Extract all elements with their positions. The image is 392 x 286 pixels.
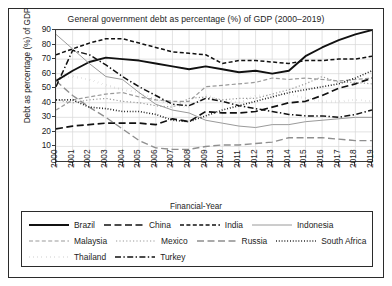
legend-label: Thailand <box>74 252 106 262</box>
y-axis-tick-mark <box>52 87 55 88</box>
legend-item[interactable]: India <box>179 220 243 230</box>
legend-item[interactable]: China <box>103 220 171 230</box>
legend-swatch-china <box>103 220 145 230</box>
legend-item[interactable]: Russia <box>196 236 268 246</box>
legend-label: Indonesia <box>297 220 333 230</box>
x-axis-tick-label: 2014 <box>282 149 292 168</box>
legend-label: India <box>225 220 243 230</box>
x-axis-tick-label: 2000 <box>49 149 59 168</box>
legend-item[interactable]: Brazil <box>28 220 95 230</box>
legend-swatch-india <box>179 220 221 230</box>
y-axis-tick-label: 40 <box>42 97 51 107</box>
legend-item[interactable]: Indonesia <box>251 220 333 230</box>
y-axis-tick-label: 30 <box>42 111 51 121</box>
x-axis-tick-label: 2012 <box>249 149 259 168</box>
y-axis-tick-mark <box>52 131 55 132</box>
series-line <box>56 71 372 122</box>
y-axis-tick-label: 70 <box>42 53 51 63</box>
y-axis-tick-mark <box>52 145 55 146</box>
legend-label: Mexico <box>161 236 188 246</box>
x-axis-tick-label: 2005 <box>132 149 142 168</box>
y-axis-tick-mark <box>52 73 55 74</box>
legend-swatch-mexico <box>115 236 157 246</box>
y-axis-tick-mark <box>52 116 55 117</box>
plot-area <box>55 29 373 162</box>
series-line <box>56 30 372 81</box>
y-axis-tick-label: 90 <box>42 24 51 34</box>
x-axis-tick-label: 2018 <box>348 149 358 168</box>
legend-swatch-brazil <box>28 220 70 230</box>
series-line <box>56 81 372 149</box>
legend-row: BrazilChinaIndiaIndonesia <box>28 217 366 233</box>
y-axis-tick-mark <box>52 102 55 103</box>
x-axis-tick-label: 2003 <box>99 149 109 168</box>
chart-legend: BrazilChinaIndiaIndonesiaMalaysiaMexicoR… <box>21 211 373 267</box>
legend-label: Turkey <box>160 252 185 262</box>
legend-label: Russia <box>242 236 268 246</box>
legend-swatch-indonesia <box>251 220 293 230</box>
legend-label: Malaysia <box>74 236 107 246</box>
y-axis-tick-label: 60 <box>42 68 51 78</box>
chart-title: General government debt as percentage (%… <box>9 14 383 24</box>
x-axis-tick-label: 2009 <box>199 149 209 168</box>
y-axis-label: Debt as percentage (%) of GDP <box>23 0 32 136</box>
x-axis-tick-label: 2010 <box>215 149 225 168</box>
legend-item[interactable]: Malaysia <box>28 236 107 246</box>
series-line <box>56 39 372 64</box>
legend-swatch-turkey <box>114 252 156 262</box>
x-axis-tick-label: 2019 <box>365 149 375 168</box>
x-axis-tick-label: 2008 <box>182 149 192 168</box>
x-axis-tick-label: 2007 <box>165 149 175 168</box>
x-axis-tick-label: 2006 <box>149 149 159 168</box>
x-axis-tick-label: 2017 <box>332 149 342 168</box>
legend-label: South Africa <box>321 236 366 246</box>
y-axis-tick-mark <box>52 58 55 59</box>
legend-swatch-south-africa <box>275 236 317 246</box>
legend-label: Brazil <box>74 220 95 230</box>
y-axis-tick-label: 80 <box>42 39 51 49</box>
x-axis-tick-label: 2011 <box>232 150 242 168</box>
legend-row: ThailandTurkey <box>28 249 366 265</box>
legend-item[interactable]: South Africa <box>275 236 366 246</box>
legend-item[interactable]: Thailand <box>28 252 106 262</box>
x-axis-tick-label: 2016 <box>315 149 325 168</box>
legend-swatch-malaysia <box>28 236 70 246</box>
legend-swatch-russia <box>196 236 238 246</box>
legend-swatch-thailand <box>28 252 70 262</box>
plot-wrapper: 1020304050607080902000200120022003200420… <box>55 29 373 162</box>
y-axis-tick-mark <box>52 44 55 45</box>
x-axis-tick-label: 2015 <box>298 149 308 168</box>
legend-row: MalaysiaMexicoRussiaSouth Africa <box>28 233 366 249</box>
legend-item[interactable]: Turkey <box>114 252 185 262</box>
x-axis-tick-label: 2001 <box>66 149 76 168</box>
y-axis-tick-label: 20 <box>42 126 51 136</box>
chart-figure: General government debt as percentage (%… <box>8 8 384 278</box>
legend-label: China <box>149 220 171 230</box>
x-axis-tick-label: 2002 <box>82 149 92 168</box>
x-axis-tick-label: 2013 <box>265 149 275 168</box>
x-axis-label: Financial-Year <box>9 202 383 211</box>
y-axis-tick-label: 50 <box>42 82 51 92</box>
x-axis-tick-label: 2004 <box>116 149 126 168</box>
legend-item[interactable]: Mexico <box>115 236 188 246</box>
y-axis-tick-mark <box>52 29 55 30</box>
